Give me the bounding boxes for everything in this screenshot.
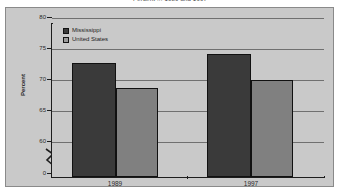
legend-swatch-icon-united-states (63, 37, 69, 43)
y-tick-label-60: 60 (22, 138, 46, 144)
gridline-80 (52, 18, 324, 19)
chart-title-strip: Percent ... 1989 and 1997 (0, 0, 340, 7)
chart-figure: Percent ... 1989 and 1997 Percent 80 75 … (0, 0, 340, 194)
y-tick-label-65: 65 (22, 107, 46, 113)
bar-mississippi-1997 (207, 54, 251, 177)
bar-mississippi-1989 (72, 63, 116, 177)
plot-area (52, 24, 324, 177)
x-axis-label-1997: 1997 (221, 180, 281, 187)
chart-legend: Mississippi United States (63, 26, 108, 44)
legend-label-mississippi: Mississippi (72, 26, 101, 35)
y-tick-label-70: 70 (22, 76, 46, 82)
y-tick-label-80: 80 (22, 14, 46, 20)
chart-frame: Percent 80 75 70 65 60 0 (5, 7, 334, 187)
legend-item-mississippi: Mississippi (63, 26, 108, 35)
legend-item-united-states: United States (63, 35, 108, 44)
legend-label-united-states: United States (72, 35, 108, 44)
chart-title: Percent ... 1989 and 1997 (0, 0, 340, 2)
y-axis-title: Percent (20, 62, 26, 108)
bar-united-states-1989 (116, 88, 158, 177)
x-tick-mark-mid (187, 176, 188, 179)
y-tick-label-0: 0 (22, 170, 46, 176)
legend-swatch-icon-mississippi (63, 28, 69, 34)
x-axis-label-1989: 1989 (85, 180, 145, 187)
y-tick-label-75: 75 (22, 45, 46, 51)
gridline-75 (52, 49, 324, 50)
bar-united-states-1997 (251, 80, 293, 177)
